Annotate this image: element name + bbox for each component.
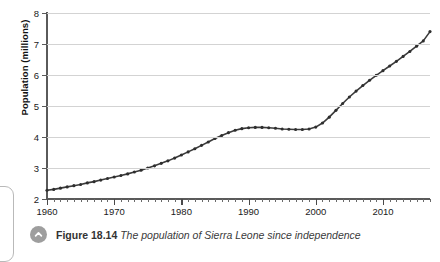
y-axis-title: Population (millions) [19,0,30,138]
x-axis-minor-tick [101,199,102,202]
x-axis-minor-tick [235,199,236,202]
x-axis-minor-tick [390,199,391,202]
x-axis-tick-label: 1960 [36,206,57,217]
data-point-marker [160,162,163,165]
data-point-marker [308,127,311,130]
x-axis-minor-tick [322,199,323,202]
x-axis-minor-tick [309,199,310,202]
x-axis-minor-tick [396,199,397,202]
y-axis-tick [42,168,47,169]
data-point-marker [106,177,109,180]
data-point-marker [274,127,277,130]
circle-up-chevron-icon [30,226,47,243]
x-axis-minor-tick [228,199,229,202]
data-point-marker [207,140,210,143]
data-point-marker [381,69,384,72]
data-point-marker [72,184,75,187]
data-point-marker [126,172,129,175]
x-axis-minor-tick [202,199,203,202]
x-axis-minor-tick [81,199,82,202]
x-axis-tick-label: 1990 [238,206,259,217]
x-axis-minor-tick [302,199,303,202]
x-axis-minor-tick [195,199,196,202]
data-point-marker [113,175,116,178]
gridline [47,44,430,45]
figure-number: Figure 18.14 [56,229,117,241]
y-axis-tick [42,44,47,45]
x-axis-minor-tick [275,199,276,202]
x-axis-major-tick [383,199,384,205]
data-point-marker [240,127,243,130]
x-axis-minor-tick [155,199,156,202]
data-point-marker [388,64,391,67]
data-point-marker [408,50,411,53]
x-axis-minor-tick [87,199,88,202]
data-point-marker [321,122,324,125]
x-axis-minor-tick [161,199,162,202]
data-point-marker [348,95,351,98]
data-point-marker [119,174,122,177]
x-axis-tick-label: 2000 [305,206,326,217]
data-point-marker [415,45,418,48]
data-point-marker [66,185,69,188]
figure-title: The population of Sierra Leone since ind… [120,229,361,241]
x-axis-minor-tick [269,199,270,202]
x-axis-tick-label: 1980 [171,206,192,217]
x-axis-minor-tick [134,199,135,202]
x-axis-minor-tick [60,199,61,202]
data-point-marker [301,128,304,131]
plot-area: 2345678196019701980199020002010 [47,13,430,199]
data-point-marker [99,179,102,182]
x-axis-minor-tick [67,199,68,202]
x-axis-minor-tick [296,199,297,202]
population-line-chart: Population (millions) 234567819601970198… [0,0,440,215]
x-axis-minor-tick [370,199,371,202]
y-axis-tick-label: 5 [34,101,39,112]
data-point-marker [79,183,82,186]
data-point-marker [187,150,190,153]
data-point-marker [334,109,337,112]
y-axis-tick-label: 4 [34,132,39,143]
data-point-marker [234,129,237,132]
data-point-marker [361,84,364,87]
x-axis-minor-tick [289,199,290,202]
gridline [47,75,430,76]
data-point-marker [193,147,196,150]
gridline [47,137,430,138]
x-axis-minor-tick [148,199,149,202]
x-axis-minor-tick [417,199,418,202]
x-axis-minor-tick [242,199,243,202]
x-axis-minor-tick [121,199,122,202]
x-axis-minor-tick [423,199,424,202]
x-axis-minor-tick [282,199,283,202]
x-axis-major-tick [249,199,250,205]
x-axis-minor-tick [208,199,209,202]
data-point-marker [140,169,143,172]
data-point-marker [314,126,317,129]
data-point-marker [52,188,55,191]
gridline [47,168,430,169]
x-axis-minor-tick [141,199,142,202]
y-axis-tick-label: 7 [34,39,39,50]
x-axis-minor-tick [376,199,377,202]
gridline [47,13,430,14]
data-point-marker [86,181,89,184]
figure-caption: Figure 18.14 The population of Sierra Le… [30,226,430,243]
data-point-marker [173,157,176,160]
x-axis-minor-tick [94,199,95,202]
x-axis-minor-tick [410,199,411,202]
x-axis-major-tick [47,199,48,205]
data-point-marker [341,102,344,105]
x-axis-minor-tick [403,199,404,202]
x-axis-minor-tick [363,199,364,202]
data-point-marker [395,60,398,63]
data-point-marker [59,187,62,190]
data-point-marker [133,170,136,173]
y-axis-tick [42,137,47,138]
gridline [47,106,430,107]
x-axis-minor-tick [107,199,108,202]
data-point-marker [227,131,230,134]
x-axis-minor-tick [128,199,129,202]
x-axis-minor-tick [262,199,263,202]
